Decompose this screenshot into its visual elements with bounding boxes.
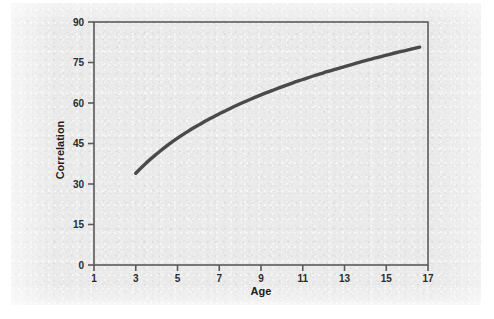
y-tick-label: 45 [73, 138, 85, 149]
y-axis-title: Correlation [54, 120, 66, 179]
chart-plot: 0153045607590 1357911131517 Age Correlat… [0, 0, 494, 319]
x-tick-label: 9 [258, 273, 264, 284]
x-tick-label: 11 [297, 273, 308, 284]
x-axis-title: Age [251, 285, 272, 297]
y-axis-ticks: 0153045607590 [73, 17, 94, 271]
x-tick-label: 15 [381, 273, 393, 284]
x-tick-label: 3 [133, 273, 139, 284]
x-axis-ticks: 1357911131517 [91, 265, 434, 284]
x-tick-label: 17 [422, 273, 434, 284]
y-tick-label: 60 [73, 98, 85, 109]
x-tick-label: 1 [91, 273, 97, 284]
y-tick-label: 90 [73, 17, 85, 28]
x-tick-label: 7 [216, 273, 222, 284]
y-tick-label: 30 [73, 179, 85, 190]
y-tick-label: 15 [73, 219, 85, 230]
data-series-line [136, 47, 420, 173]
y-tick-label: 75 [73, 57, 85, 68]
y-tick-label: 0 [78, 260, 84, 271]
figure-container: 0153045607590 1357911131517 Age Correlat… [0, 0, 494, 319]
x-tick-label: 5 [175, 273, 181, 284]
x-tick-label: 13 [339, 273, 351, 284]
